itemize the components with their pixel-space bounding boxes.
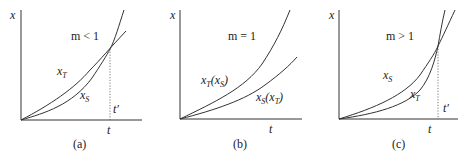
curve-label-xT: xT [56, 64, 67, 80]
panel-a: x m < 1 xT xS t′ t (a) [9, 8, 142, 151]
x-axis-label: t [269, 122, 273, 136]
y-axis-label: x [328, 8, 335, 22]
curve-label-xT-xS: xT(xS) [200, 73, 228, 89]
condition-label: m < 1 [71, 29, 99, 43]
curve-label-xS: xS [79, 88, 89, 104]
t-prime-label: t′ [443, 101, 449, 115]
y-axis-label: x [169, 8, 176, 22]
figure: x m < 1 xT xS t′ t (a) x m = 1 xT(xS) xS… [0, 0, 469, 155]
curve-xT [21, 31, 126, 120]
curve-label-xS-xT: xS(xT) [255, 90, 283, 106]
t-prime-label: t′ [113, 102, 119, 116]
curve-label-xT: xT [409, 87, 420, 103]
x-axis-label: t [428, 122, 432, 136]
condition-label: m = 1 [228, 29, 256, 43]
panel-b: x m = 1 xT(xS) xS(xT) t (b) [169, 8, 302, 151]
curve-xS-of-xT [180, 57, 297, 119]
curve-xS [21, 10, 124, 120]
panel-caption: (b) [233, 137, 247, 151]
panel-c: x m > 1 xS xT t′ t (c) [328, 8, 458, 151]
y-axis-label: x [9, 8, 16, 22]
panel-caption: (c) [392, 137, 405, 151]
curve-label-xS: xS [382, 68, 392, 84]
curve-xT [339, 10, 445, 119]
panel-caption: (a) [73, 137, 86, 151]
x-axis-label: t [107, 123, 111, 137]
condition-label: m > 1 [386, 29, 414, 43]
